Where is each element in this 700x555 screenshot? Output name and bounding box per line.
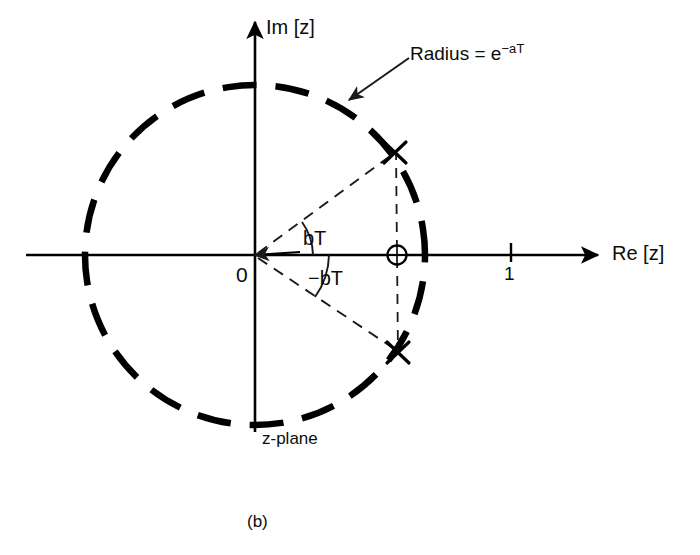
origin-label: 0 xyxy=(236,264,248,285)
angle-label-bt: bT xyxy=(303,228,326,248)
radius-annotation-text: Radius = e xyxy=(410,43,501,64)
real-axis-label: Re [z] xyxy=(612,243,664,263)
radius-annotation-exponent: −aT xyxy=(501,41,524,56)
z-plane-diagram-canvas xyxy=(0,0,700,555)
imaginary-axis-label: Im [z] xyxy=(266,17,315,37)
angle-label-negative-bt: −bT xyxy=(308,268,343,288)
figure-caption: (b) xyxy=(247,513,268,530)
radius-leader-line xyxy=(349,58,409,100)
radius-annotation: Radius = e−aT xyxy=(410,43,525,63)
plane-label: z-plane xyxy=(262,430,318,447)
real-axis-unit-label: 1 xyxy=(504,264,515,283)
z-plane-pole-zero-figure: Im [z] Re [z] Radius = e−aT 0 1 bT −bT z… xyxy=(0,0,700,555)
